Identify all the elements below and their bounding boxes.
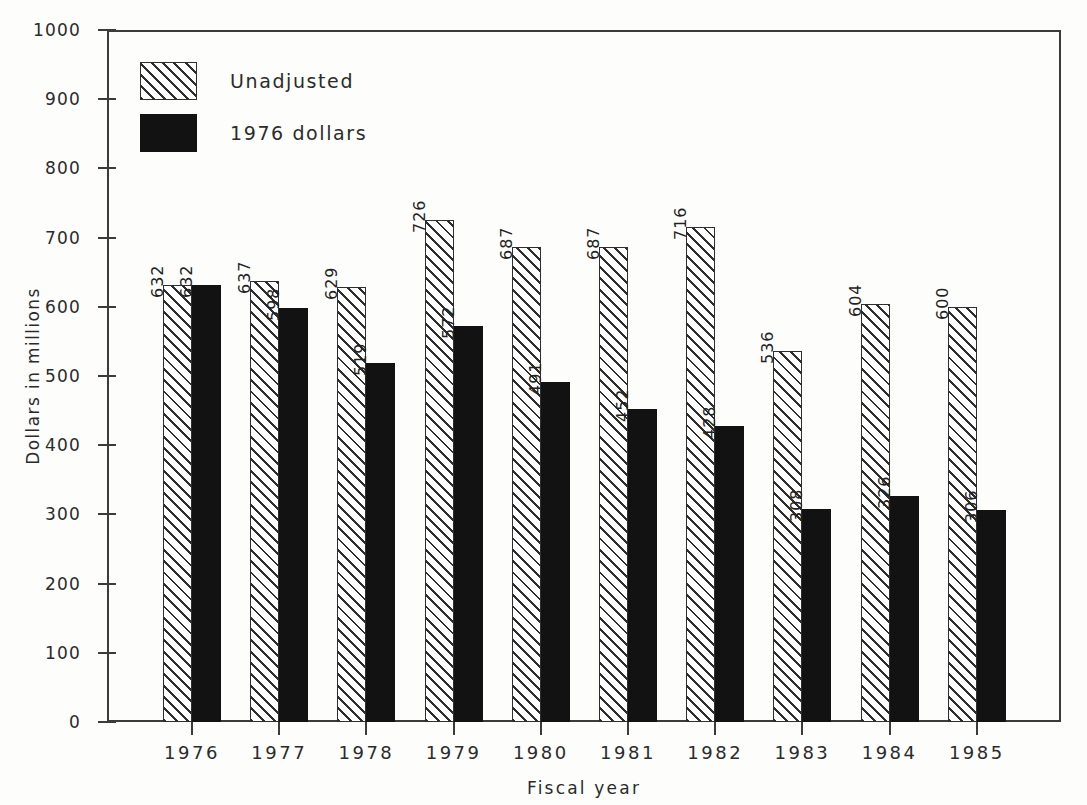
y-tick-mark: [98, 167, 116, 169]
solid-black-swatch: [140, 114, 197, 152]
bar-value-label: 604: [846, 283, 865, 317]
bar-1977-unadjusted: [250, 281, 279, 722]
x-tick-mark: [278, 722, 280, 735]
y-tick-label: 200: [45, 574, 81, 594]
y-tick-mark: [98, 652, 116, 654]
x-tick-mark: [627, 722, 629, 735]
y-tick-label: 700: [45, 228, 81, 248]
x-tick-label-1981: 1981: [600, 742, 656, 763]
y-tick-mark: [98, 444, 116, 446]
bar-value-label: 326: [875, 476, 894, 510]
y-tick-label: 100: [45, 643, 81, 663]
bar-value-label: 687: [497, 226, 516, 260]
y-tick-label: 1000: [33, 20, 81, 40]
bar-1976-adjusted: [192, 285, 221, 722]
legend-label: Unadjusted: [230, 70, 354, 92]
y-tick-label: 300: [45, 504, 81, 524]
bar-1984-adjusted: [890, 496, 919, 722]
bar-1979-adjusted: [454, 326, 483, 722]
bar-value-label: 629: [322, 266, 341, 300]
y-tick-mark: [98, 306, 116, 308]
bar-value-label: 491: [526, 362, 545, 396]
bar-value-label: 428: [700, 405, 719, 439]
bar-chart: 01002003004005006007008009001000 Dollars…: [0, 0, 1087, 805]
x-tick-label-1979: 1979: [426, 742, 482, 763]
bar-value-label: 519: [351, 342, 370, 376]
bar-1982-adjusted: [715, 426, 744, 722]
bar-value-label: 637: [235, 261, 254, 295]
x-tick-label-1977: 1977: [251, 742, 307, 763]
y-tick-label: 500: [45, 366, 81, 386]
bar-value-label: 306: [962, 490, 981, 524]
bar-1984-unadjusted: [861, 304, 890, 722]
y-tick-mark: [98, 583, 116, 585]
y-tick-mark: [98, 237, 116, 239]
x-tick-mark: [714, 722, 716, 735]
bar-1980-adjusted: [541, 382, 570, 722]
bar-value-label: 598: [264, 288, 283, 322]
x-tick-mark: [365, 722, 367, 735]
bar-value-label: 572: [439, 306, 458, 340]
x-tick-mark: [976, 722, 978, 735]
bar-value-label: 536: [758, 331, 777, 365]
bar-value-label: 716: [671, 206, 690, 240]
x-axis-title: Fiscal year: [527, 778, 641, 798]
y-tick-mark: [98, 98, 116, 100]
y-tick-mark: [98, 513, 116, 515]
bar-value-label: 308: [787, 488, 806, 522]
y-tick-mark: [98, 375, 116, 377]
bar-1981-adjusted: [628, 409, 657, 722]
x-tick-mark: [889, 722, 891, 735]
legend-label: 1976 dollars: [230, 122, 367, 144]
bar-value-label: 687: [584, 226, 603, 260]
x-tick-mark: [453, 722, 455, 735]
bar-1985-adjusted: [977, 510, 1006, 722]
x-tick-label-1980: 1980: [513, 742, 569, 763]
x-tick-label-1985: 1985: [949, 742, 1005, 763]
x-tick-label-1978: 1978: [338, 742, 394, 763]
y-tick-label: 600: [45, 297, 81, 317]
bar-1978-adjusted: [366, 363, 395, 722]
y-tick-label: 0: [69, 712, 81, 732]
bar-1979-unadjusted: [425, 220, 454, 722]
x-tick-mark: [801, 722, 803, 735]
bar-value-label: 600: [933, 286, 952, 320]
bar-1983-adjusted: [802, 509, 831, 722]
bar-1977-adjusted: [279, 308, 308, 722]
x-tick-mark: [191, 722, 193, 735]
bar-1982-unadjusted: [686, 227, 715, 722]
x-tick-label-1983: 1983: [774, 742, 830, 763]
bar-1976-unadjusted: [163, 285, 192, 722]
x-tick-mark: [540, 722, 542, 735]
y-tick-mark: [98, 721, 116, 723]
x-tick-label-1976: 1976: [164, 742, 220, 763]
bar-value-label: 632: [148, 264, 167, 298]
y-tick-label: 900: [45, 89, 81, 109]
y-tick-label: 800: [45, 158, 81, 178]
bar-value-label: 726: [410, 199, 429, 233]
x-tick-label-1982: 1982: [687, 742, 743, 763]
bar-1981-unadjusted: [599, 247, 628, 722]
bar-1980-unadjusted: [512, 247, 541, 722]
y-axis-title: Dollars in millions: [23, 287, 43, 465]
y-tick-mark: [98, 29, 116, 31]
bar-value-label: 632: [177, 264, 196, 298]
bar-1983-unadjusted: [773, 351, 802, 722]
y-tick-label: 400: [45, 435, 81, 455]
x-tick-label-1984: 1984: [862, 742, 918, 763]
hatched-swatch: [140, 62, 197, 100]
bar-value-label: 452: [613, 389, 632, 423]
